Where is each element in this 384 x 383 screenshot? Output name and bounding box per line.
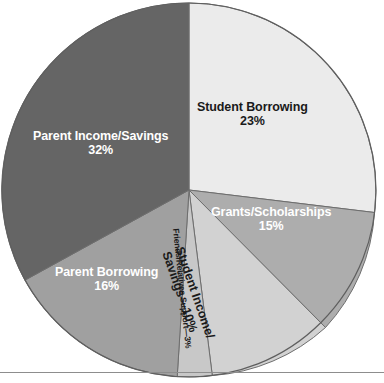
pie-label-student-borrowing-value: 23% <box>197 114 308 128</box>
pie-label-student-borrowing: Student Borrowing 23% <box>197 100 308 129</box>
pie-label-parent-borrowing-value: 16% <box>55 279 158 293</box>
pie-chart-figure: Student Borrowing 23% Grants/Scholarship… <box>0 0 384 383</box>
pie-label-parent-borrowing: Parent Borrowing 16% <box>55 265 158 294</box>
pie-label-grants-scholarships-name: Grants/Scholarships <box>211 205 331 219</box>
pie-label-parent-borrowing-name: Parent Borrowing <box>55 265 158 279</box>
pie-label-grants-scholarships: Grants/Scholarships 15% <box>211 205 331 234</box>
pie-label-parent-income-savings-value: 32% <box>33 143 168 157</box>
pie-label-parent-income-savings: Parent Income/Savings 32% <box>33 129 168 158</box>
pie-label-parent-income-savings-name: Parent Income/Savings <box>33 129 168 143</box>
pie-label-student-borrowing-name: Student Borrowing <box>197 100 308 114</box>
pie-label-grants-scholarships-value: 15% <box>211 219 331 233</box>
figure-bottom-rule <box>0 372 384 373</box>
